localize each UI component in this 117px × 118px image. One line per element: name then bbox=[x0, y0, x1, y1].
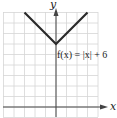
x-axis-label: x bbox=[110, 100, 117, 113]
graph: x y f(x) = |x| + 6 bbox=[0, 0, 117, 118]
function-label: f(x) = |x| + 6 bbox=[57, 49, 107, 61]
x-axis-arrow-icon bbox=[100, 105, 108, 110]
y-axis-label: y bbox=[49, 0, 57, 11]
y-axis bbox=[54, 8, 59, 117]
grid bbox=[3, 12, 98, 118]
